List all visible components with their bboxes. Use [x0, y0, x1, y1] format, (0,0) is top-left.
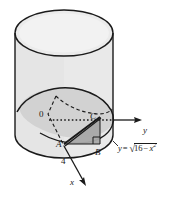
radicand-exponent: 2 — [153, 142, 156, 148]
y-axis-arrowhead — [134, 117, 142, 123]
radicand-lead: 16 — [134, 143, 143, 153]
label-point-c: C — [90, 112, 96, 121]
label-axis-y: y — [143, 126, 147, 135]
equation-radicand: 16−x2 — [134, 143, 157, 153]
equation-radical-group: √16−x2 — [129, 143, 158, 154]
label-curve-equation: y=√16−x2 — [118, 143, 157, 154]
label-point-b: B — [95, 148, 101, 157]
label-origin: 0 — [39, 110, 44, 119]
equation-equals: = — [122, 143, 129, 153]
cylinder-top-inner-highlight — [19, 14, 109, 53]
figure-canvas — [0, 0, 183, 200]
label-point-a: A — [56, 140, 62, 149]
label-axis-x: x — [70, 178, 74, 187]
label-radius-value: 4 — [61, 157, 66, 166]
cylinder-wedge-figure: 0 A B C 4 x y y=√16−x2 — [0, 0, 183, 200]
